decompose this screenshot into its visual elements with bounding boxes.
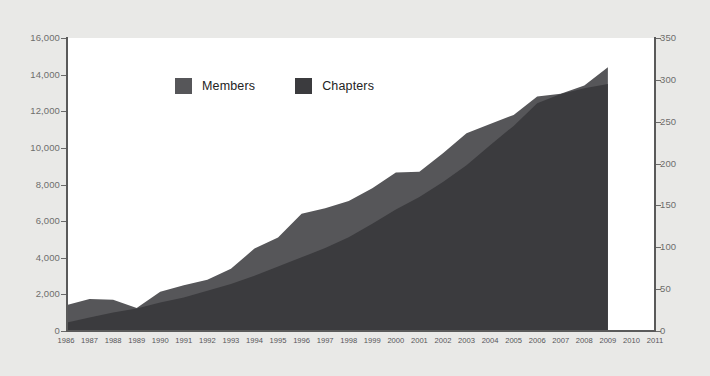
legend-label-members: Members (202, 79, 255, 93)
legend-swatch-chapters (295, 78, 312, 94)
y-axis-left-tick-label: 6,000 (0, 215, 60, 226)
y-axis-left-tick (61, 221, 66, 222)
area-chart: 02,0004,0006,0008,00010,00012,00014,0001… (0, 0, 710, 376)
chart-legend: Members Chapters (175, 78, 374, 94)
y-axis-right-tick (656, 205, 661, 206)
y-axis-right-tick-label: 200 (660, 158, 706, 169)
y-axis-left-tick-label: 16,000 (0, 32, 60, 43)
y-axis-left-tick-label: 4,000 (0, 252, 60, 263)
legend-item-chapters: Chapters (295, 78, 374, 94)
y-axis-right-line (654, 37, 656, 332)
y-axis-left-tick (61, 294, 66, 295)
y-axis-left-tick-label: 10,000 (0, 142, 60, 153)
legend-item-members: Members (175, 78, 255, 94)
y-axis-left-tick-label: 14,000 (0, 69, 60, 80)
y-axis-left-tick-label: 12,000 (0, 105, 60, 116)
y-axis-right-tick-label: 50 (660, 283, 706, 294)
y-axis-right-tick (656, 38, 661, 39)
x-tick-label: 2011 (640, 336, 670, 345)
y-axis-left-tick-label: 8,000 (0, 179, 60, 190)
y-axis-right-tick-label: 250 (660, 116, 706, 127)
y-axis-left-line (66, 37, 68, 332)
y-axis-right-tick (656, 164, 661, 165)
legend-swatch-members (175, 78, 192, 94)
y-axis-right-tick-label: 150 (660, 199, 706, 210)
y-axis-left-tick-label: 0 (0, 325, 60, 336)
y-axis-right-tick-label: 300 (660, 74, 706, 85)
y-axis-left-tick (61, 38, 66, 39)
y-axis-right-tick-label: 350 (660, 32, 706, 43)
y-axis-right-tick-label: 100 (660, 241, 706, 252)
y-axis-left-tick (61, 148, 66, 149)
y-axis-right-tick (656, 80, 661, 81)
y-axis-right-tick (656, 289, 661, 290)
y-axis-left-tick-label: 2,000 (0, 288, 60, 299)
x-axis-line (66, 330, 656, 332)
y-axis-right-tick (656, 331, 661, 332)
y-axis-left-tick (61, 331, 66, 332)
legend-label-chapters: Chapters (322, 79, 374, 93)
y-axis-right-tick (656, 247, 661, 248)
y-axis-left-tick (61, 258, 66, 259)
y-axis-left-tick (61, 75, 66, 76)
x-axis-ticks: 1986198719881989199019911992199319941995… (66, 336, 656, 350)
y-axis-right-tick-label: 0 (660, 325, 706, 336)
y-axis-left-tick (61, 111, 66, 112)
y-axis-right-tick (656, 122, 661, 123)
y-axis-left-tick (61, 185, 66, 186)
